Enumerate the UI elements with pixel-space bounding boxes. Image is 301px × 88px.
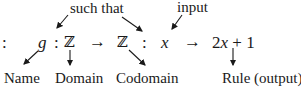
name-arrow-icon — [24, 51, 38, 64]
input-arrow-icon — [172, 15, 182, 29]
pointer-arrows — [0, 0, 301, 88]
such-that-arrow-right-icon — [122, 17, 142, 31]
codomain-arrow-icon — [129, 50, 145, 65]
such-that-arrow-left-icon — [57, 15, 68, 28]
